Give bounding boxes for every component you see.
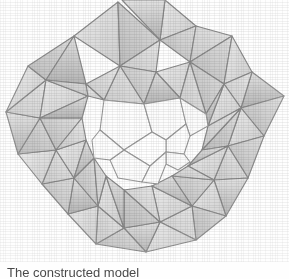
figure-caption: The constructed model xyxy=(7,268,139,279)
polyhedron-figure xyxy=(0,0,289,262)
caption-clip-region: The constructed model xyxy=(0,268,289,279)
page-canvas: The constructed model xyxy=(0,0,289,279)
polyhedron-illustration xyxy=(0,0,289,262)
